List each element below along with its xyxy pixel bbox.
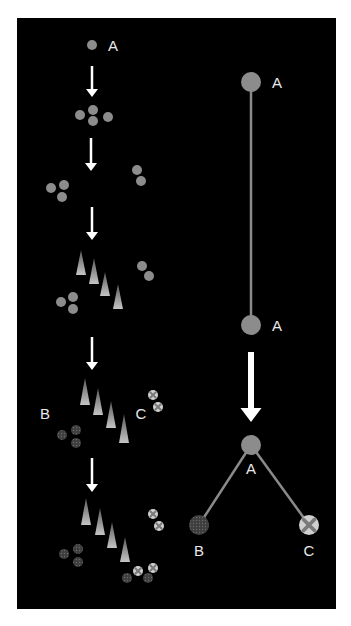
label-B: B xyxy=(40,406,50,421)
tree-edge xyxy=(199,445,251,525)
tree-label-A1: A xyxy=(272,75,282,90)
cell-C xyxy=(148,390,158,400)
spike-shape xyxy=(113,284,123,309)
spike-shape xyxy=(81,498,91,525)
cell-B xyxy=(73,557,83,567)
cell-A xyxy=(137,261,147,271)
tree-label-A3: A xyxy=(246,461,256,476)
cell-A xyxy=(56,297,66,307)
cell-B xyxy=(143,573,153,583)
cell-A xyxy=(68,304,78,314)
spike-shape xyxy=(119,414,129,443)
big-down-arrow-icon xyxy=(241,352,262,422)
label-C: C xyxy=(136,406,147,421)
tree-node-C xyxy=(299,515,319,535)
cell-A xyxy=(87,40,97,50)
down-arrow-icon xyxy=(85,138,97,171)
down-arrow-icon xyxy=(86,458,98,492)
cell-A xyxy=(132,165,142,175)
label-A-top: A xyxy=(108,38,118,53)
cell-A xyxy=(88,105,98,115)
spike-shape xyxy=(80,378,90,405)
cell-C xyxy=(148,509,158,519)
cell-B xyxy=(122,573,132,583)
tree-node-B xyxy=(189,515,209,535)
cell-A xyxy=(68,292,78,302)
cell-C xyxy=(133,566,143,576)
tree-edge xyxy=(251,445,309,525)
spike-shape xyxy=(93,388,103,415)
down-arrow-icon xyxy=(86,207,98,240)
cell-B xyxy=(59,549,69,559)
cell-C xyxy=(154,521,164,531)
cell-B xyxy=(71,425,81,435)
tree-label-B: B xyxy=(194,543,204,558)
cell-B xyxy=(71,438,81,448)
cell-C xyxy=(148,563,158,573)
spike-shape xyxy=(106,401,116,428)
spike-shape xyxy=(107,522,117,548)
tree-node-A3 xyxy=(241,435,261,455)
cell-A xyxy=(59,180,69,190)
spike-shape xyxy=(100,272,110,296)
left-panel xyxy=(46,40,164,583)
cell-A xyxy=(57,192,67,202)
cell-B xyxy=(73,544,83,554)
tree-node-A1 xyxy=(241,72,261,92)
cell-A xyxy=(144,271,154,281)
tree-node-A2 xyxy=(241,315,261,335)
tree-label-C: C xyxy=(304,543,315,558)
cell-A xyxy=(75,110,85,120)
spike-shape xyxy=(95,508,105,535)
cell-C xyxy=(153,402,163,412)
cell-A xyxy=(136,176,146,186)
lineage-diagram xyxy=(0,0,351,626)
down-arrow-icon xyxy=(86,337,98,370)
cell-A xyxy=(88,116,98,126)
cell-B xyxy=(57,430,67,440)
down-arrow-icon xyxy=(86,66,98,97)
tree-label-A2: A xyxy=(272,318,282,333)
cell-A xyxy=(103,112,113,122)
cell-A xyxy=(46,183,56,193)
spike-shape xyxy=(89,258,99,284)
spike-shape xyxy=(76,250,86,275)
spike-shape xyxy=(120,537,130,562)
